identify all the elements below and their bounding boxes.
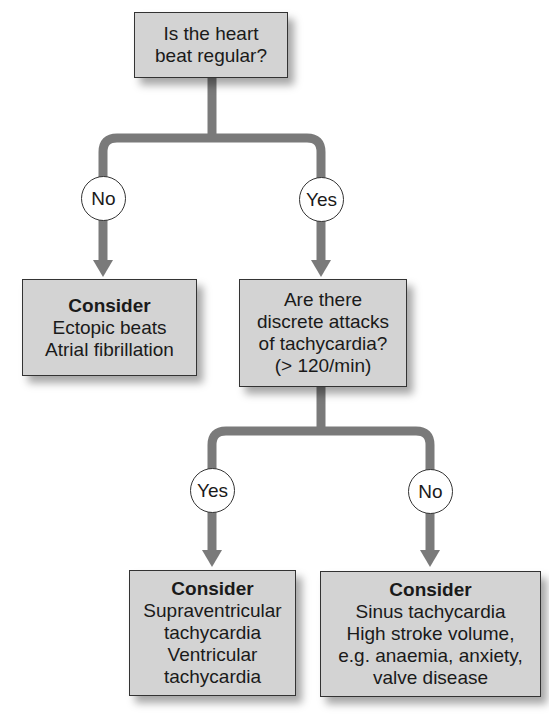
- arrowhead-icon: [311, 260, 331, 277]
- result-line: tachycardia: [130, 622, 295, 644]
- result-line: valve disease: [321, 667, 540, 689]
- no-text: No: [91, 188, 115, 210]
- yes-text: Yes: [197, 480, 228, 502]
- decision-yes-label: Yes: [299, 177, 344, 222]
- consider-svt-box: Consider Supraventricular tachycardia Ve…: [129, 570, 296, 696]
- arrowhead-icon: [93, 260, 113, 277]
- result-line: e.g. anaemia, anxiety,: [321, 645, 540, 667]
- result-line: Supraventricular: [130, 600, 295, 622]
- tachycardia-question-box: Are there discrete attacks of tachycardi…: [239, 279, 407, 387]
- question-line: discrete attacks: [240, 311, 406, 333]
- root-line-2: beat regular?: [135, 45, 287, 67]
- consider-sinus-box: Consider Sinus tachycardia High stroke v…: [320, 571, 541, 697]
- arrowhead-icon: [420, 550, 440, 567]
- result-line: Sinus tachycardia: [321, 601, 540, 623]
- question-line: Are there: [240, 289, 406, 311]
- result-line: Ventricular: [130, 644, 295, 666]
- decision-no-label-2: No: [408, 469, 453, 514]
- question-line: (> 120/min): [240, 355, 406, 377]
- consider-title: Consider: [321, 579, 540, 601]
- result-line: tachycardia: [130, 666, 295, 688]
- root-line-1: Is the heart: [135, 23, 287, 45]
- consider-title: Consider: [23, 295, 196, 317]
- consider-title: Consider: [130, 578, 295, 600]
- result-line: Atrial fibrillation: [23, 339, 196, 361]
- no-text: No: [418, 481, 442, 503]
- decision-no-label: No: [81, 176, 126, 221]
- question-line: of tachycardia?: [240, 333, 406, 355]
- result-line: High stroke volume,: [321, 623, 540, 645]
- arrowhead-icon: [202, 550, 222, 567]
- decision-yes-label-2: Yes: [190, 468, 235, 513]
- yes-text: Yes: [306, 189, 337, 211]
- result-line: Ectopic beats: [23, 317, 196, 339]
- consider-ectopic-box: Consider Ectopic beats Atrial fibrillati…: [22, 279, 197, 376]
- root-question-box: Is the heart beat regular?: [134, 12, 288, 78]
